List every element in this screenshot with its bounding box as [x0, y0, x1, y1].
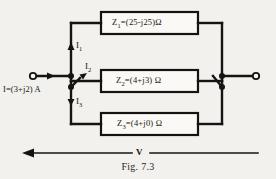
- i1-subscript: 1: [79, 45, 82, 52]
- source-current-label: I=(3+j2) A: [3, 84, 41, 94]
- current-label-i2: I2: [85, 61, 91, 73]
- impedance-label-z2: Z2=(4+j3) Ω: [116, 75, 161, 87]
- junction-dot-right-upper: [219, 73, 225, 79]
- i3-subscript: 3: [79, 101, 82, 108]
- voltage-label: V: [136, 147, 143, 157]
- current-label-i3: I3: [76, 96, 82, 108]
- voltage-arrow-head: [22, 149, 34, 158]
- i2-subscript: 2: [88, 66, 91, 73]
- output-terminal: [253, 73, 259, 79]
- figure-caption: Fig. 7.3: [0, 161, 276, 172]
- impedance-label-z3: Z3=(4+j0) Ω: [117, 118, 162, 130]
- source-current-arrow: [47, 73, 55, 80]
- node-stroke-left: [71, 78, 80, 87]
- z1-value: =(25-j25): [121, 17, 155, 27]
- z3-unit: Ω: [156, 118, 163, 128]
- current-arrow-i3: [68, 99, 75, 106]
- figure-container: Z1=(25-j25)Ω Z2=(4+j3) Ω Z3=(4+j0) Ω I1 …: [0, 0, 276, 179]
- z3-value: =(4+j0): [126, 118, 154, 128]
- z2-unit: Ω: [155, 75, 162, 85]
- impedance-label-z1: Z1=(25-j25)Ω: [112, 17, 162, 29]
- input-terminal: [30, 73, 36, 79]
- current-label-i1: I1: [76, 40, 82, 52]
- junction-dot-left-upper: [68, 73, 74, 79]
- z1-unit: Ω: [155, 17, 162, 27]
- z2-value: =(4+j3): [125, 75, 153, 85]
- current-arrow-i1: [68, 42, 75, 50]
